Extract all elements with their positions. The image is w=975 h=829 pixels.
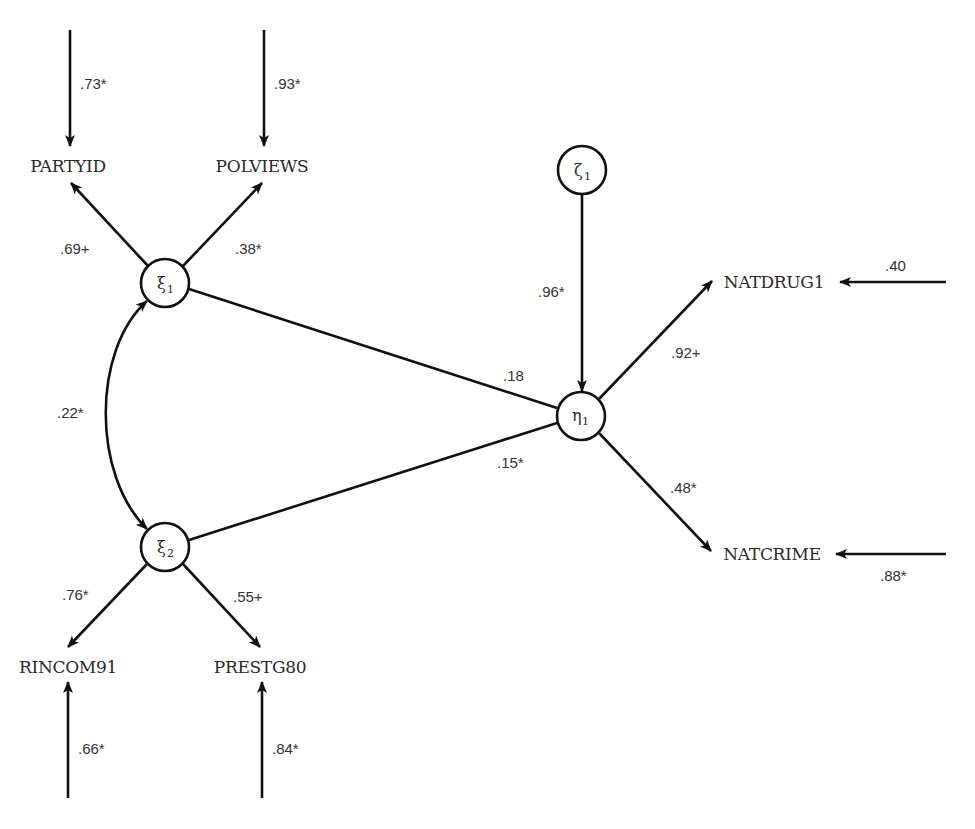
coef-loading-prestg80: .55+ xyxy=(233,588,263,605)
observed-label-partyid: PARTYID xyxy=(30,156,105,176)
observed-label-prestg80: PRESTG80 xyxy=(214,657,306,677)
latent-node-eta1: η 1 xyxy=(557,392,605,440)
coef-error-partyid: .73* xyxy=(80,75,107,92)
coef-path-zeta1-eta1: .96* xyxy=(538,283,565,300)
loading-arrow-eta1-natdrug1 xyxy=(599,281,712,399)
loading-arrow-xi2-rincom91 xyxy=(68,564,147,647)
correlation-xi1-xi2 xyxy=(106,301,147,529)
observed-label-polviews: POLVIEWS xyxy=(216,156,309,176)
svg-text:1: 1 xyxy=(582,415,589,428)
coef-loading-partyid: .69+ xyxy=(60,240,90,257)
observed-label-natcrime: NATCRIME xyxy=(723,544,821,564)
coef-error-prestg80: .84* xyxy=(272,740,299,757)
latent-node-xi1: ξ 1 xyxy=(141,259,189,307)
svg-text:η: η xyxy=(572,406,582,425)
svg-text:2: 2 xyxy=(167,547,174,560)
coef-error-natdrug1: .40 xyxy=(885,257,906,274)
svg-text:ξ: ξ xyxy=(157,274,166,293)
coef-loading-natdrug1: .92+ xyxy=(671,344,701,361)
coef-error-polviews: .93* xyxy=(274,75,301,92)
latent-node-xi2: ξ 2 xyxy=(141,523,189,571)
path-xi2-eta1 xyxy=(189,423,557,540)
coef-loading-natcrime: .48* xyxy=(670,479,697,496)
coef-loading-rincom91: .76* xyxy=(62,586,89,603)
svg-text:ξ: ξ xyxy=(157,538,166,557)
coef-correlation-xi1-xi2: .22* xyxy=(57,404,84,421)
observed-label-natdrug1: NATDRUG1 xyxy=(724,272,824,292)
svg-text:1: 1 xyxy=(584,170,591,183)
path-xi1-eta1 xyxy=(189,289,557,408)
latent-node-zeta1: ζ 1 xyxy=(558,146,606,194)
svg-text:ζ: ζ xyxy=(574,161,583,180)
loading-arrow-xi2-prestg80 xyxy=(183,564,260,647)
observed-label-rincom91: RINCOM91 xyxy=(19,657,117,677)
coef-error-rincom91: .66* xyxy=(78,740,105,757)
coef-loading-polviews: .38* xyxy=(235,240,262,257)
coef-error-natcrime: .88* xyxy=(880,567,907,584)
coef-path-xi1-eta1: .18 xyxy=(503,367,524,384)
sem-diagram: ξ 1 ξ 2 η 1 ζ 1 PARTYID POLVIEWS RINCOM9… xyxy=(0,0,975,829)
coef-path-xi2-eta1: .15* xyxy=(497,454,524,471)
svg-text:1: 1 xyxy=(167,283,174,296)
